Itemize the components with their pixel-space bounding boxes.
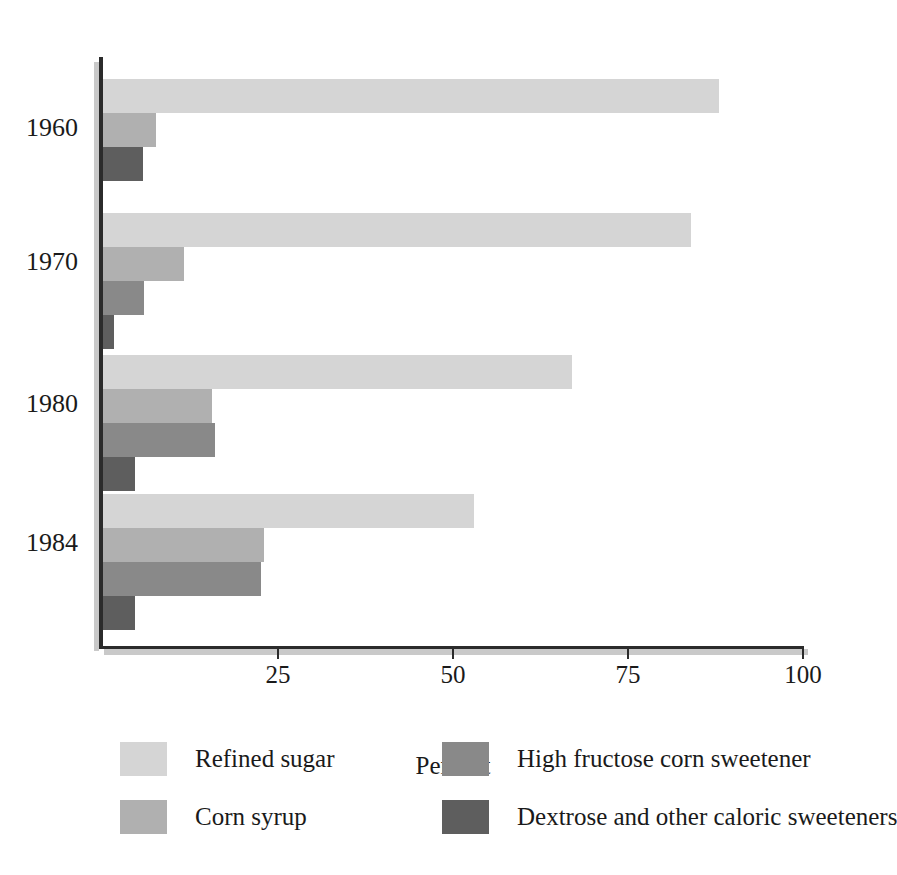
x-axis-line [99,646,803,649]
y-axis-label-1984: 1984 [0,528,78,558]
plot-area: 25 50 75 100 [103,57,803,646]
legend-label-high-fructose-corn-sweetener: High fructose corn sweetener [517,745,811,773]
x-tick-label-25: 25 [266,661,291,689]
legend-label-dextrose: Dextrose and other caloric sweeteners [517,803,897,831]
bar-1970-dextrose [103,315,114,349]
legend-swatch-dextrose [442,800,489,834]
chart-legend: Refined sugar Corn syrup High fructose c… [120,742,840,852]
x-tick-label-75: 75 [616,661,641,689]
legend-item-refined-sugar: Refined sugar [120,742,335,776]
legend-swatch-refined-sugar [120,742,167,776]
x-tick-50 [452,646,454,659]
bar-1984-refined-sugar [103,494,474,528]
bar-1980-corn-syrup [103,389,212,423]
legend-swatch-corn-syrup [120,800,167,834]
x-tick-25 [277,646,279,659]
bar-1980-high-fructose-corn-sweetener [103,423,215,457]
legend-item-high-fructose-corn-sweetener: High fructose corn sweetener [442,742,811,776]
y-axis-label-1970: 1970 [0,247,78,277]
bar-1984-dextrose [103,596,135,630]
legend-label-refined-sugar: Refined sugar [195,745,335,773]
bar-1960-refined-sugar [103,79,719,113]
x-tick-75 [627,646,629,659]
legend-label-corn-syrup: Corn syrup [195,803,307,831]
bar-1970-corn-syrup [103,247,184,281]
legend-item-dextrose: Dextrose and other caloric sweeteners [442,800,897,834]
bar-1960-dextrose [103,147,143,181]
legend-swatch-high-fructose-corn-sweetener [442,742,489,776]
bar-1984-high-fructose-corn-sweetener [103,562,261,596]
x-tick-100 [802,646,804,659]
bar-1984-corn-syrup [103,528,264,562]
y-axis-label-1960: 1960 [0,113,78,143]
bar-1980-refined-sugar [103,355,572,389]
bar-1970-high-fructose-corn-sweetener [103,281,144,315]
x-tick-label-100: 100 [784,661,822,689]
x-tick-label-50: 50 [441,661,466,689]
legend-item-corn-syrup: Corn syrup [120,800,307,834]
x-axis-shadow [104,649,808,655]
bar-1980-dextrose [103,457,135,491]
bar-1960-corn-syrup [103,113,156,147]
bar-1970-refined-sugar [103,213,691,247]
y-axis-label-1980: 1980 [0,389,78,419]
